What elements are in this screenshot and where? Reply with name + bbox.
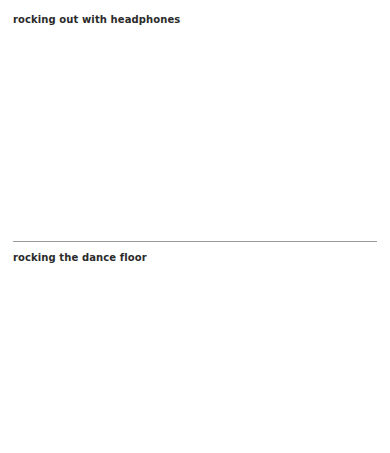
section-headphones: rocking out with headphones bbox=[0, 14, 390, 239]
section-heading-headphones: rocking out with headphones bbox=[0, 14, 390, 26]
document-page: rocking out with headphones rocking the … bbox=[0, 0, 390, 453]
section-body-headphones bbox=[0, 26, 390, 239]
section-dancefloor: rocking the dance floor bbox=[0, 241, 390, 452]
section-body-dancefloor bbox=[0, 264, 390, 452]
section-divider-dancefloor bbox=[13, 241, 377, 242]
section-heading-dancefloor: rocking the dance floor bbox=[0, 252, 390, 264]
